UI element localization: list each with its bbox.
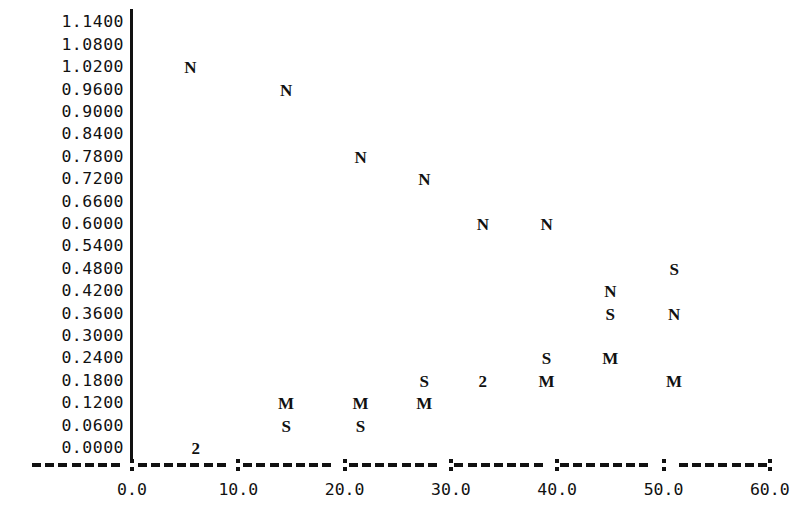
- data-point-n: N: [184, 59, 196, 76]
- data-point-m: M: [353, 395, 369, 412]
- x-axis-dash: [520, 463, 529, 467]
- data-point-s: S: [281, 417, 290, 434]
- x-axis-dash: [481, 463, 490, 467]
- x-axis-dash: [745, 463, 754, 467]
- y-axis-tick-label: 0.7800: [0, 149, 124, 166]
- y-axis-tick-label: 0.8400: [0, 126, 124, 143]
- data-point-m: M: [602, 350, 618, 367]
- data-point-s: S: [420, 372, 429, 389]
- x-axis-dash: [428, 463, 437, 467]
- x-axis-dash: [626, 463, 635, 467]
- data-point-n: N: [604, 283, 616, 300]
- data-point-m: M: [278, 395, 294, 412]
- x-axis-dash: [45, 463, 54, 467]
- data-point-n: N: [418, 171, 430, 188]
- y-axis-tick-label: 0.9600: [0, 82, 124, 99]
- data-point-n: N: [280, 81, 292, 98]
- x-axis-dash: [217, 463, 226, 467]
- data-point-n: N: [477, 216, 489, 233]
- y-axis-tick-label: 0.6600: [0, 194, 124, 211]
- x-axis-dash: [190, 463, 199, 467]
- x-axis-dash: [349, 463, 358, 467]
- x-axis-tick-mark: [555, 459, 559, 473]
- y-axis-tick-label: 0.6000: [0, 216, 124, 233]
- x-axis-dash: [454, 463, 463, 467]
- y-axis-tick-label: 1.1400: [0, 14, 124, 31]
- x-axis-dash: [732, 463, 741, 467]
- x-axis-tick-label: 20.0: [325, 482, 365, 499]
- x-axis-dash: [151, 463, 160, 467]
- x-axis-tick-mark: [449, 459, 453, 473]
- y-axis-tick-label: 0.3000: [0, 328, 124, 345]
- x-axis-dash: [138, 463, 147, 467]
- y-axis-tick-label: 0.5400: [0, 238, 124, 255]
- x-axis-dash: [177, 463, 186, 467]
- x-axis-dash: [32, 463, 41, 467]
- x-axis-tick-label: 30.0: [431, 482, 471, 499]
- data-point-n: N: [540, 216, 552, 233]
- data-point-overlap-count: 2: [192, 440, 201, 457]
- x-axis-dash: [362, 463, 371, 467]
- x-axis-dash: [718, 463, 727, 467]
- x-axis-dash: [468, 463, 477, 467]
- x-axis-dash: [613, 463, 622, 467]
- x-axis-dash: [72, 463, 81, 467]
- data-point-s: S: [542, 350, 551, 367]
- y-axis-tick-label: 1.0800: [0, 37, 124, 54]
- x-axis-tick-label: 50.0: [644, 482, 684, 499]
- x-axis-dash: [758, 463, 767, 467]
- x-axis-dash: [296, 463, 305, 467]
- data-point-overlap-count: 2: [479, 372, 488, 389]
- x-axis-dash: [111, 463, 120, 467]
- x-axis-tick-mark: [343, 459, 347, 473]
- x-axis-tick-label: 40.0: [537, 482, 577, 499]
- x-axis-dash: [388, 463, 397, 467]
- y-axis-tick-label: 0.0600: [0, 418, 124, 435]
- scatter-plot: 1.14001.08001.02000.96000.90000.84000.78…: [0, 0, 810, 526]
- x-axis-dash: [375, 463, 384, 467]
- x-axis-dash: [256, 463, 265, 467]
- x-axis-line: [32, 459, 774, 473]
- x-axis-tick-label: 0.0: [117, 482, 147, 499]
- data-point-m: M: [666, 372, 682, 389]
- y-axis-tick-label: 0.7200: [0, 171, 124, 188]
- y-axis-tick-label: 0.0000: [0, 440, 124, 457]
- y-axis-tick-label: 1.0200: [0, 59, 124, 76]
- data-point-n: N: [354, 148, 366, 165]
- y-axis-line: [130, 9, 133, 462]
- x-axis-tick-mark: [130, 459, 134, 473]
- x-axis-dash: [534, 463, 543, 467]
- x-axis-dash: [415, 463, 424, 467]
- x-axis-dash: [494, 463, 503, 467]
- y-axis-tick-label: 0.1200: [0, 395, 124, 412]
- x-axis-dash: [85, 463, 94, 467]
- data-point-s: S: [669, 260, 678, 277]
- data-point-n: N: [668, 305, 680, 322]
- x-axis-tick-mark: [662, 459, 666, 473]
- x-axis-dash: [586, 463, 595, 467]
- x-axis-dash: [98, 463, 107, 467]
- data-point-s: S: [606, 305, 615, 322]
- x-axis-dash: [322, 463, 331, 467]
- x-axis-dash: [243, 463, 252, 467]
- data-point-m: M: [416, 395, 432, 412]
- data-point-s: S: [356, 417, 365, 434]
- x-axis-dash: [679, 463, 688, 467]
- x-axis-dash: [639, 463, 648, 467]
- x-axis-dash: [705, 463, 714, 467]
- x-axis-tick-label: 10.0: [218, 482, 258, 499]
- x-axis-dash: [58, 463, 67, 467]
- x-axis-tick-label: 60.0: [750, 482, 790, 499]
- x-axis-tick-mark: [768, 459, 772, 473]
- data-point-m: M: [539, 372, 555, 389]
- x-axis-dash: [283, 463, 292, 467]
- x-axis-dash: [270, 463, 279, 467]
- x-axis-dash: [507, 463, 516, 467]
- y-axis-tick-label: 0.2400: [0, 350, 124, 367]
- y-axis-tick-label: 0.9000: [0, 104, 124, 121]
- y-axis-tick-label: 0.1800: [0, 373, 124, 390]
- x-axis-dash: [164, 463, 173, 467]
- x-axis-dash: [402, 463, 411, 467]
- x-axis-dash: [309, 463, 318, 467]
- x-axis-dash: [560, 463, 569, 467]
